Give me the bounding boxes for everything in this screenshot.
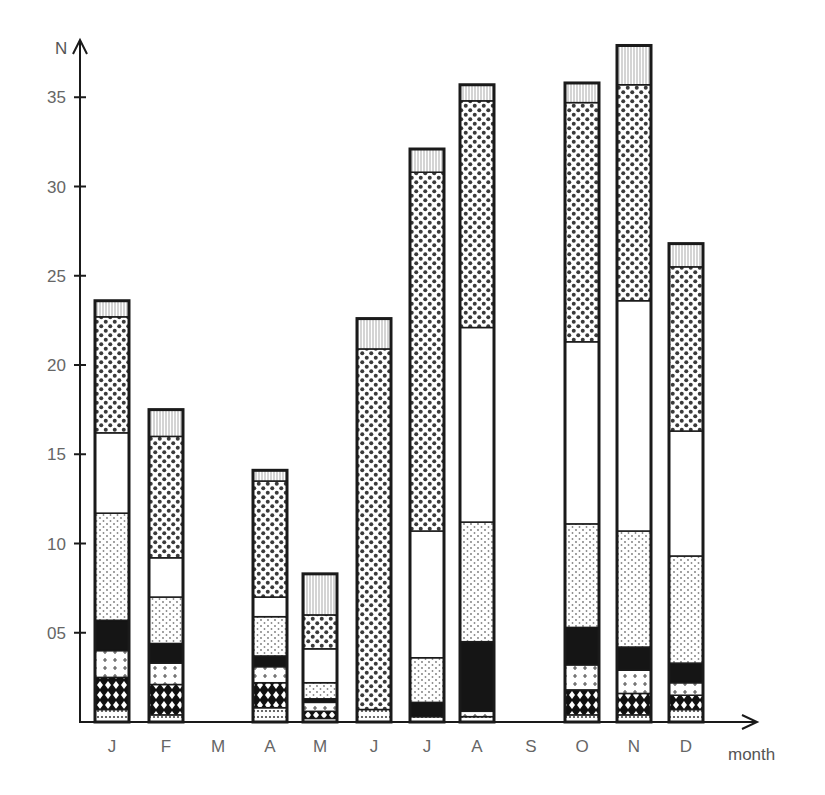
x-category-label: S [525,737,536,756]
bar-segment-layer-4-solid-black [253,656,287,667]
y-tick-label: 30 [47,178,66,197]
x-category-label: F [161,737,171,756]
bar-segment-layer-3-crosses [95,651,129,678]
bar-6 [410,149,444,722]
bar-segment-layer-6-white [565,342,599,524]
bar-segment-layer-6-white [669,431,703,556]
bar-segment-layer-2-diamonds [95,677,129,709]
bar-segment-layer-3-crosses [303,702,337,711]
bar-segment-layer-8-vertical-hatch [460,85,494,101]
bar-segment-layer-8-vertical-hatch [149,410,183,437]
bar-segment-layer-5-fine-stipple [410,658,444,703]
x-category-label: M [211,737,225,756]
y-tick-label: 05 [47,624,66,643]
bar-segment-layer-6-white [149,558,183,597]
bar-segment-layer-7-heavy-dots [303,615,337,649]
bar-segment-layer-3-crosses [253,667,287,683]
bar-9 [565,83,599,722]
bar-11 [669,244,703,722]
bar-1 [149,410,183,722]
y-tick-label: 15 [47,445,66,464]
bar-segment-layer-8-vertical-hatch [565,83,599,103]
bar-segment-layer-8-vertical-hatch [253,470,287,481]
bar-segment-layer-2-diamonds [303,711,337,718]
bar-segment-layer-6-white [253,597,287,617]
bar-segment-layer-2-diamonds [617,693,651,714]
stacked-bar-chart: N 05101520253035 JFMAMJJASOND month [0,0,825,795]
x-labels-group: JFMAMJJASOND [108,737,692,756]
x-category-label: O [575,737,588,756]
x-category-label: J [370,737,379,756]
bar-segment-layer-8-vertical-hatch [95,301,129,317]
bars-group [95,45,703,722]
bar-segment-layer-6-white [460,328,494,523]
bar-segment-layer-4-solid-black [617,647,651,670]
bar-segment-layer-1-light-dots [669,710,703,722]
bar-segment-layer-1-light-dots [253,708,287,722]
bar-7 [460,85,494,722]
x-category-label: N [628,737,640,756]
bar-segment-layer-5-fine-stipple [303,683,337,699]
bar-segment-layer-5-fine-stipple [460,522,494,642]
bar-segment-layer-5-fine-stipple [669,556,703,663]
bar-segment-layer-5-fine-stipple [253,617,287,656]
bar-segment-layer-4-solid-black [410,702,444,716]
bar-segment-layer-8-vertical-hatch [410,149,444,172]
bar-segment-layer-4-solid-black [95,620,129,650]
bar-segment-layer-4-solid-black [565,627,599,664]
bar-segment-layer-7-heavy-dots [460,101,494,328]
bar-segment-layer-2-diamonds [149,685,183,715]
x-category-label: A [264,737,276,756]
x-category-label: D [680,737,692,756]
bar-segment-layer-3-crosses [565,665,599,690]
bar-segment-layer-1-light-dots [357,710,391,722]
y-tick-label: 20 [47,356,66,375]
bar-segment-layer-6-white [617,301,651,531]
x-category-label: J [108,737,117,756]
bar-segment-layer-5-fine-stipple [617,531,651,647]
bar-segment-layer-6-white [303,649,337,683]
bar-segment-layer-7-heavy-dots [253,481,287,597]
bar-4 [303,574,337,722]
bar-segment-layer-3-crosses [149,663,183,684]
bar-segment-layer-2-diamonds [565,690,599,715]
bar-segment-layer-1-light-dots [95,710,129,722]
bar-segment-layer-8-vertical-hatch [357,319,391,349]
bar-segment-layer-3-crosses [669,683,703,695]
bar-segment-layer-7-heavy-dots [669,267,703,431]
bar-segment-layer-4-solid-black [460,642,494,712]
bar-segment-layer-7-heavy-dots [410,172,444,531]
bar-segment-layer-4-solid-black [149,643,183,663]
bar-5 [357,319,391,722]
x-category-label: J [423,737,432,756]
bar-segment-layer-5-fine-stipple [149,597,183,643]
bar-3 [253,470,287,722]
bar-segment-layer-8-vertical-hatch [669,244,703,267]
x-category-label: M [313,737,327,756]
bar-segment-layer-7-heavy-dots [617,85,651,301]
bar-segment-layer-2-diamonds [253,683,287,708]
bar-segment-layer-8-vertical-hatch [617,45,651,84]
bar-segment-layer-6-white [95,433,129,513]
y-axis-title: N [55,39,67,58]
bar-segment-layer-4-solid-black [669,663,703,683]
x-axis-title: month [728,745,775,764]
bar-segment-layer-7-heavy-dots [95,317,129,433]
bar-segment-layer-7-heavy-dots [149,436,183,557]
bar-segment-layer-5-fine-stipple [565,524,599,628]
y-tick-label: 10 [47,535,66,554]
y-tick-label: 25 [47,267,66,286]
bar-segment-layer-7-heavy-dots [357,349,391,710]
bar-10 [617,45,651,722]
bar-segment-layer-8-vertical-hatch [303,574,337,615]
bar-segment-layer-6-white [410,531,444,658]
bar-0 [95,301,129,722]
bar-segment-layer-3-crosses [617,670,651,693]
bar-segment-layer-7-heavy-dots [565,103,599,342]
bar-segment-layer-2-diamonds [669,695,703,709]
x-category-label: A [471,737,483,756]
y-tick-label: 35 [47,88,66,107]
bar-segment-layer-5-fine-stipple [95,513,129,620]
bar-segment-layer-3-crosses [460,711,494,716]
